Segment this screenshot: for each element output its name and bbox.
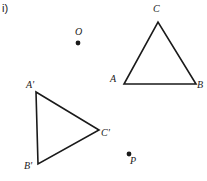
point-label-P: P xyxy=(130,156,136,166)
vertex-label-B-prime: B' xyxy=(24,161,32,171)
point-label-O: O xyxy=(75,27,82,37)
triangle-A-prime-B-prime-C-prime-shape xyxy=(36,92,99,164)
vertex-label-A: A xyxy=(110,74,116,84)
vertex-label-C-prime: C' xyxy=(101,128,110,138)
vertex-label-A-prime: A' xyxy=(26,80,34,90)
geometry-canvas xyxy=(0,0,207,181)
triangle-ABC-shape xyxy=(124,22,196,84)
vertex-label-B: B xyxy=(197,80,203,90)
geometry-figure: i) C A B A' B' C' O P xyxy=(0,0,207,181)
point-O-dot xyxy=(76,41,81,46)
vertex-label-C: C xyxy=(153,4,160,14)
